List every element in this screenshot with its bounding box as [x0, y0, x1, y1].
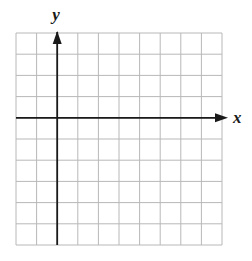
coordinate-grid-figure: x y	[0, 0, 252, 261]
grid-lines	[16, 33, 222, 245]
x-axis-label: x	[233, 109, 242, 126]
axes	[16, 31, 228, 245]
y-axis-label: y	[52, 6, 60, 23]
coordinate-grid	[0, 0, 252, 261]
